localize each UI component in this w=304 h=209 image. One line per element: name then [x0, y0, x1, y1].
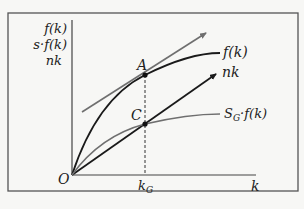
y-label-fk: f(k): [43, 21, 67, 36]
point-c: [142, 121, 147, 126]
y-label-sfk: s·f(k): [33, 37, 67, 52]
sgfk-label-sub: G: [233, 113, 240, 123]
sgfk-label-rest: ·f(k): [240, 106, 267, 121]
sgfk-label-s: S: [224, 106, 233, 121]
y-label-nk: nk: [46, 53, 62, 68]
x-axis-label: k: [251, 178, 259, 194]
kg-tick-k: k: [138, 178, 146, 193]
point-a-label: A: [135, 57, 147, 73]
sgfk-label: SG·f(k): [224, 106, 267, 123]
origin-label: O: [58, 171, 70, 187]
point-a: [142, 72, 147, 77]
nk-label: nk: [222, 64, 240, 80]
point-c-label: C: [131, 107, 142, 123]
solow-diagram: f(k) s·f(k) nk A C f(k) nk SG·f(k) O kG …: [0, 0, 304, 209]
kg-tick-sub: G: [146, 185, 153, 195]
kg-tick-label: kG: [138, 178, 153, 195]
fk-label: f(k): [222, 44, 248, 60]
